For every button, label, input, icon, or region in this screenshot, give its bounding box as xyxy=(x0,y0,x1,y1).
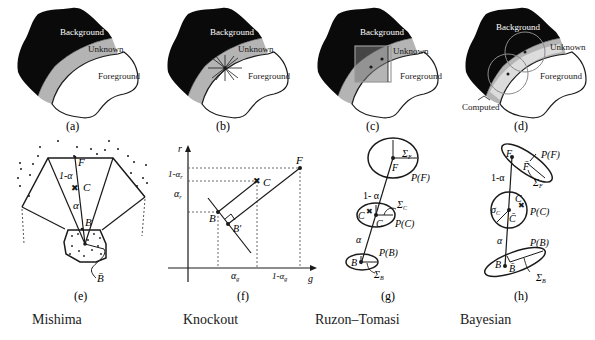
caption-h: (h) xyxy=(514,289,528,303)
label-B: B xyxy=(495,259,501,270)
label-sigmaC: σC xyxy=(491,204,501,216)
label-Cbar: C̄ xyxy=(509,213,516,224)
label-1-alpha: 1-α xyxy=(491,172,505,183)
label-alpha: α xyxy=(356,234,362,245)
method-label-bayesian: Bayesian xyxy=(460,312,511,328)
background-cluster xyxy=(64,230,106,262)
label-foreground: Foreground xyxy=(400,71,442,81)
caption-d: (d) xyxy=(514,119,528,133)
label-sigmaF: ΣF xyxy=(401,148,412,160)
label-Bprime: B' xyxy=(233,223,242,234)
panel-h: ✖ F F̄ P(F) ΣF 1-α C σC C̄ P(C) α P(B) B… xyxy=(482,138,561,303)
label-Cbar: C xyxy=(376,218,383,229)
label-foreground: Foreground xyxy=(540,71,582,81)
label-sigmaC: ΣC xyxy=(396,199,408,211)
label-unknown: Unknown xyxy=(88,44,124,54)
method-label-knockout: Knockout xyxy=(183,312,238,328)
label-1-alpha-g: 1-αg xyxy=(272,271,287,282)
panel-d: Background Unknown Foreground Computed (… xyxy=(462,8,586,133)
label-C: C xyxy=(358,210,365,221)
label-PF: P(F) xyxy=(540,149,561,161)
label-computed: Computed xyxy=(462,102,500,112)
label-background: Background xyxy=(496,22,540,32)
label-foreground: Foreground xyxy=(98,71,140,81)
sample-rays-icon xyxy=(208,55,242,81)
matting-diagram: Background Unknown Foreground (a) Backgr… xyxy=(0,0,595,340)
label-background: Background xyxy=(360,27,404,37)
label-alpha: α xyxy=(497,235,503,246)
caption-f: (f) xyxy=(237,289,249,303)
composite-marker-icon: ✖ xyxy=(253,176,261,186)
panel-b: Background Unknown Foreground (b) xyxy=(167,8,290,133)
caption-e: (e) xyxy=(74,289,87,303)
label-alpha-g: αg xyxy=(231,270,239,282)
label-B: B xyxy=(85,216,92,228)
label-unknown: Unknown xyxy=(238,44,274,54)
caption-c: (c) xyxy=(366,119,379,133)
label-r: r xyxy=(178,143,182,154)
caption-b: (b) xyxy=(216,119,230,133)
panel-e: ✖ F 1-α C α B B̄ (e) xyxy=(17,140,148,303)
label-F: F xyxy=(505,148,513,159)
label-PB: P(B) xyxy=(378,247,399,259)
label-Bbar: B̄ xyxy=(97,272,104,284)
label-F: F xyxy=(391,162,399,173)
label-g: g xyxy=(308,273,313,284)
label-sigmaB: ΣB xyxy=(535,272,546,284)
label-PC: P(C) xyxy=(394,218,415,230)
label-B: B xyxy=(209,212,216,224)
caption-a: (a) xyxy=(66,119,79,133)
label-1-alpha: 1-α xyxy=(59,170,73,181)
panel-f: ✖ r g F C B B' 1-αr αr αg 1-αg (f) xyxy=(168,143,317,303)
label-alpha: α xyxy=(73,199,79,211)
label-B: B xyxy=(351,257,357,268)
label-F: F xyxy=(295,154,303,166)
method-label-ruzon-tomasi: Ruzon–Tomasi xyxy=(315,312,400,328)
label-Fbar: F̄ xyxy=(522,161,530,172)
label-alpha-r: αr xyxy=(174,188,182,200)
label-sigmaB: ΣB xyxy=(373,269,384,281)
label-1-alpha: 1- α xyxy=(363,190,380,201)
composite-marker-icon: ✖ xyxy=(71,183,79,193)
label-PC: P(C) xyxy=(529,206,550,218)
label-Bbar: B̄ xyxy=(509,263,515,274)
label-PB: P(B) xyxy=(529,237,550,249)
panel-c: Background Unknown Foreground (c) xyxy=(317,8,442,133)
method-label-mishima: Mishima xyxy=(32,312,82,328)
label-foreground: Foreground xyxy=(248,71,290,81)
panel-g: ✖ ΣF F P(F) 1- α ΣC C C P(C) α P(B) B ΣB… xyxy=(346,138,431,303)
label-background: Background xyxy=(210,27,254,37)
label-C: C xyxy=(83,181,91,193)
label-1-alpha-r: 1-αr xyxy=(168,169,183,180)
label-sigmaF: ΣF xyxy=(532,177,543,189)
label-PF: P(F) xyxy=(410,172,431,184)
label-F: F xyxy=(77,156,85,168)
label-unknown: Unknown xyxy=(550,42,586,52)
panel-a: Background Unknown Foreground (a) xyxy=(17,8,140,133)
caption-g: (g) xyxy=(381,289,395,303)
composite-marker-icon: ✖ xyxy=(366,207,373,216)
label-unknown: Unknown xyxy=(393,46,429,56)
label-C: C xyxy=(515,193,522,204)
label-C: C xyxy=(263,176,271,188)
label-background: Background xyxy=(60,27,104,37)
